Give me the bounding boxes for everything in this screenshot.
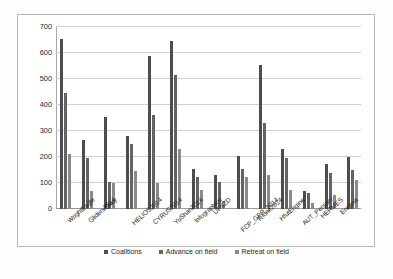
bar-group	[259, 27, 270, 209]
x-axis-tick-label: Oxsy	[103, 196, 118, 211]
legend-item[interactable]: Retreat on field	[235, 248, 289, 255]
bar-group	[60, 27, 71, 209]
chart-legend: CoalitionsAdvance on fieldRetreat on fie…	[0, 248, 393, 255]
bar[interactable]	[174, 75, 177, 209]
legend-label: Advance on field	[166, 248, 218, 255]
bar-group	[281, 27, 292, 209]
y-axis-tick-label: 200	[40, 152, 52, 161]
bar-group	[170, 27, 181, 209]
legend-item[interactable]: Advance on field	[159, 248, 218, 255]
bar-group	[347, 27, 358, 209]
bar-group	[126, 27, 137, 209]
plot-area: 0100200300400500600700	[56, 27, 361, 209]
bar-group	[104, 27, 115, 209]
bar-group	[148, 27, 159, 209]
bar-group	[237, 27, 248, 209]
bar-group	[82, 27, 93, 209]
bar[interactable]	[259, 65, 262, 209]
legend-swatch-icon	[104, 250, 108, 254]
bar[interactable]	[64, 93, 67, 209]
bar-group	[192, 27, 203, 209]
bar[interactable]	[170, 41, 173, 209]
y-axis-tick-label: 600	[40, 48, 52, 57]
x-axis-labels: WrightEagleGliders2014OxsyHELIOS2014CYRU…	[38, 196, 343, 250]
bar[interactable]	[152, 115, 155, 209]
legend-item[interactable]: Coalitions	[104, 248, 142, 255]
y-axis-tick-label: 100	[40, 178, 52, 187]
legend-label: Coalitions	[111, 248, 142, 255]
bar-series-container	[56, 27, 361, 209]
y-axis-tick-label: 300	[40, 126, 52, 135]
bar[interactable]	[60, 39, 63, 209]
y-axis-tick-label: 700	[40, 22, 52, 31]
bar-group	[303, 27, 314, 209]
legend-label: Retreat on field	[242, 248, 289, 255]
bar-group	[325, 27, 336, 209]
legend-swatch-icon	[235, 250, 239, 254]
y-axis-tick-label: 500	[40, 74, 52, 83]
bar-group	[214, 27, 225, 209]
bar[interactable]	[148, 56, 151, 209]
y-axis-tick-label: 400	[40, 100, 52, 109]
chart-page: 0100200300400500600700 WrightEagleGlider…	[0, 0, 393, 279]
legend-swatch-icon	[159, 250, 163, 254]
